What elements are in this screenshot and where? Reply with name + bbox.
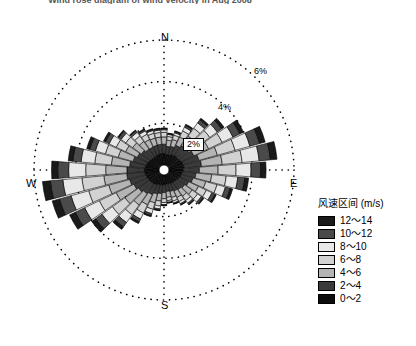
legend-entry-label: 6～8 [340,254,361,265]
wind-rose-segment [81,149,97,163]
legend-entry[interactable]: 0～2 [318,292,412,305]
legend-entry[interactable]: 12～14 [318,214,412,227]
wind-rose-segment [86,164,106,176]
direction-label-north: N [161,32,169,43]
legend-swatch [318,281,335,291]
legend-entry-label: 4～6 [340,267,361,278]
wind-rose-segment [236,163,251,177]
legend-swatch [318,255,335,265]
radial-tick-label-2pct: 2% [183,138,204,151]
wind-rose-segment [199,166,218,175]
wind-rose-segment [161,137,166,144]
wind-rose-segment [161,130,167,133]
legend-entry[interactable]: 6～8 [318,253,412,266]
wind-rose-segment [218,164,236,175]
wind-rose-petals [42,118,277,232]
legend-entry[interactable]: 8～10 [318,240,412,253]
wind-rose-segment [58,162,69,179]
legend-entry[interactable]: 4～6 [318,266,412,279]
center-hub [159,165,169,175]
wind-rose-segment [161,205,167,206]
wind-rose-segment [161,199,166,203]
legend-swatch [318,229,335,239]
legend-entry[interactable]: 2～4 [318,279,412,292]
legend-swatch [318,294,335,304]
direction-label-east: E [290,178,297,189]
legend-swatch [318,216,335,226]
wind-rose-segment [161,132,167,137]
wind-rose-segment [224,176,237,189]
wind-rose-segment [52,161,59,179]
wind-rose-segment [251,162,261,177]
legend-entry-label: 12～14 [340,215,372,226]
wind-rose-segment [69,162,86,177]
radial-tick-label-6pct: 6% [252,66,269,77]
legend-title: 风速区间 (m/s) [318,198,412,210]
legend-entry-label: 10～12 [340,228,372,239]
legend-entry-label: 0～2 [340,293,361,304]
legend-entry-label: 2～4 [340,280,361,291]
radial-tick-label-4pct: 4% [216,102,233,113]
wind-rose-plot: N E S W 2% 4% 6% [0,0,312,346]
wind-rose-segment [260,162,266,178]
legend-swatch [318,242,335,252]
wind-rose-segment [161,128,168,129]
legend-entry-label: 8～10 [340,241,367,252]
legend-swatch [318,268,335,278]
wind-rose-svg [0,0,312,346]
direction-label-south: S [161,300,168,311]
legend-entry-list: 12～1410～128～106～84～62～40～2 [318,214,412,305]
legend-entry[interactable]: 10～12 [318,227,412,240]
wind-rose-segment [106,165,127,174]
legend: 风速区间 (m/s) 12～1410～128～106～84～62～40～2 [318,198,412,305]
direction-label-west: W [26,178,36,189]
wind-rose-segment [162,192,167,198]
